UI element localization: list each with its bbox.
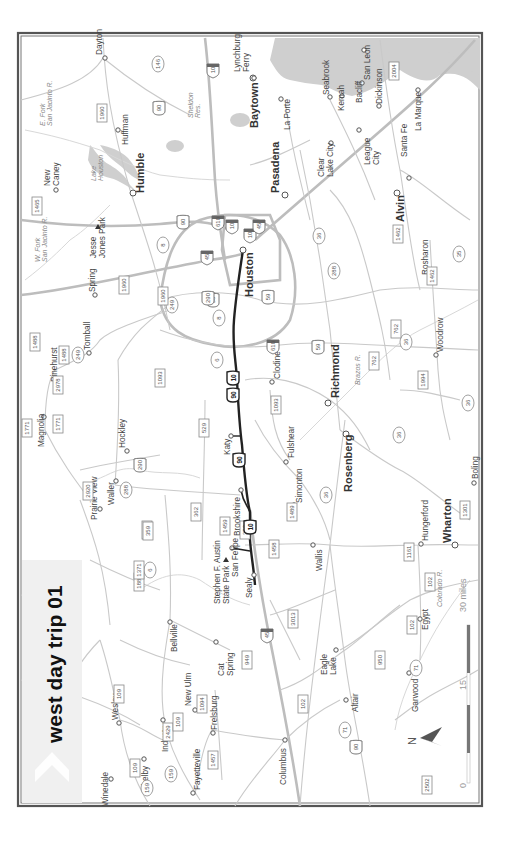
shield-number: 102 bbox=[300, 698, 306, 709]
shield-number: 159 bbox=[144, 782, 150, 793]
town-label-boling: Boling bbox=[471, 456, 480, 479]
shield-number: 10 bbox=[210, 66, 216, 73]
shield-number: 90 bbox=[353, 743, 359, 750]
state-shield: 36 bbox=[313, 228, 325, 244]
shield-number: 10 bbox=[247, 231, 253, 238]
shield-number: 290 bbox=[137, 459, 143, 470]
town-label-new-caney: NewCaney bbox=[43, 161, 61, 186]
trip-map: HoustonHumbleBaytownPasadenaAlvinRichmon… bbox=[0, 0, 507, 846]
town-marker-la-marque bbox=[416, 88, 420, 92]
shield-number: 1371 bbox=[136, 563, 142, 577]
north-arrow: N bbox=[406, 727, 442, 746]
shield-number: 1465 bbox=[34, 199, 40, 213]
shield-number: 35 bbox=[456, 250, 462, 257]
road bbox=[103, 58, 190, 115]
water-label-e-fork-san-jacinto-r: E. ForkSan Jacinto R. bbox=[39, 80, 53, 126]
scale-label-0: 0 bbox=[458, 783, 468, 788]
town-marker-fulshear bbox=[284, 460, 288, 464]
town-marker-spring bbox=[93, 293, 97, 297]
shield-number: 3013 bbox=[290, 612, 296, 626]
shield-number: 59 bbox=[315, 343, 321, 350]
farm-road-shield: 3013 bbox=[288, 610, 298, 628]
town-label-kemah: Kemah bbox=[337, 85, 346, 111]
baytown-marsh bbox=[230, 113, 250, 127]
town-marker-league-city bbox=[357, 128, 361, 132]
shield-number: 45 bbox=[264, 631, 270, 638]
map-title: west day trip 01 bbox=[43, 585, 66, 744]
farm-road-shield: 950 bbox=[375, 651, 385, 669]
route-shield: 10 bbox=[227, 371, 239, 385]
road bbox=[115, 485, 240, 495]
town-marker-bellville bbox=[168, 620, 172, 624]
town-label-garwood: Garwood bbox=[411, 678, 420, 712]
city-label-houston: Houston bbox=[243, 252, 255, 297]
town-label-altair: Altair bbox=[351, 693, 360, 712]
shield-number: 90 bbox=[230, 391, 237, 399]
farm-road-shield: 1457 bbox=[208, 751, 218, 769]
town-label-wallis: Wallis bbox=[315, 549, 324, 571]
water-label-colorado-r: Colorado R. bbox=[436, 570, 443, 607]
farm-road-shield: 1489 bbox=[287, 503, 297, 521]
shield-number: 249 bbox=[75, 349, 81, 360]
shield-number: 36 bbox=[465, 399, 471, 406]
town-marker-cat-spring bbox=[214, 640, 218, 644]
water-label-brazos-r: Brazos R. bbox=[354, 354, 361, 385]
state-shield: 6 bbox=[144, 562, 156, 578]
town-label-fulshear: Fulshear bbox=[287, 426, 296, 458]
shield-number: 36 bbox=[396, 431, 402, 438]
town-label-bacliff: Bacliff bbox=[355, 80, 364, 103]
shield-number: 1094 bbox=[199, 697, 205, 711]
town-label-san-felipe: San Felipe bbox=[231, 537, 240, 577]
town-label-cat-spring: CatSpring bbox=[217, 652, 235, 676]
scale-segment bbox=[467, 705, 470, 753]
farm-road-shield: 762 bbox=[391, 320, 401, 338]
farm-road-shield: 1488 bbox=[59, 346, 69, 364]
state-shield: 288 bbox=[328, 263, 340, 279]
town-marker-lynchburg-ferry bbox=[252, 76, 256, 80]
town-label-la-marque: La Marque bbox=[414, 91, 423, 131]
town-marker-altair bbox=[344, 698, 348, 702]
farm-road-shield: 529 bbox=[199, 419, 209, 437]
state-shield: 8 bbox=[213, 310, 225, 326]
city-label-pasadena: Pasadena bbox=[269, 141, 281, 193]
road bbox=[245, 544, 478, 547]
town-marker-huffman bbox=[116, 128, 120, 132]
town-label-fayetteville: Fayetteville bbox=[193, 748, 202, 790]
town-label-santa-fe: Santa Fe bbox=[400, 123, 409, 157]
us-shield: 290 bbox=[202, 291, 214, 305]
farm-road-shield: 1771 bbox=[22, 419, 32, 437]
shield-number: 45 bbox=[204, 253, 210, 260]
farm-road-shield: 1771 bbox=[53, 415, 63, 433]
shield-number: 949 bbox=[244, 654, 250, 665]
town-label-dayton: Dayton bbox=[95, 29, 104, 55]
road bbox=[21, 58, 103, 100]
town-marker-shelby bbox=[142, 757, 146, 761]
farm-road-shield: 1462 bbox=[427, 267, 437, 285]
city-marker-pasadena bbox=[282, 192, 288, 198]
shield-number: 2502 bbox=[424, 778, 430, 792]
town-label-magnolia: Magnolia bbox=[37, 413, 46, 447]
town-marker-columbus bbox=[283, 738, 287, 742]
city-label-baytown: Baytown bbox=[248, 82, 260, 128]
us-shield: 290 bbox=[134, 458, 146, 472]
road bbox=[270, 600, 300, 660]
shield-number: 159 bbox=[168, 768, 174, 779]
farm-road-shield: 1465 bbox=[32, 197, 42, 215]
farm-road-shield: 1960 bbox=[97, 104, 107, 122]
shield-number: 362 bbox=[193, 506, 199, 517]
town-label-egypt: Egypt bbox=[421, 608, 430, 630]
shield-number: 90 bbox=[180, 218, 186, 225]
farm-road-shield: 2920 bbox=[83, 482, 93, 500]
interstate-shield: 10 bbox=[226, 220, 238, 234]
farm-road-shield: 109 bbox=[114, 685, 124, 703]
road bbox=[235, 740, 285, 806]
state-shield: 71 bbox=[410, 660, 422, 676]
city-marker-houston bbox=[240, 247, 246, 253]
shield-number: 10 bbox=[247, 523, 254, 531]
title-panel: west day trip 01 bbox=[22, 560, 82, 803]
road bbox=[270, 590, 335, 615]
scale-bar: 0 15 30 miles bbox=[458, 578, 470, 788]
town-marker-hockley bbox=[125, 449, 129, 453]
water-label-sheldon-res: SheldonRes. bbox=[187, 92, 201, 118]
road bbox=[55, 310, 170, 370]
